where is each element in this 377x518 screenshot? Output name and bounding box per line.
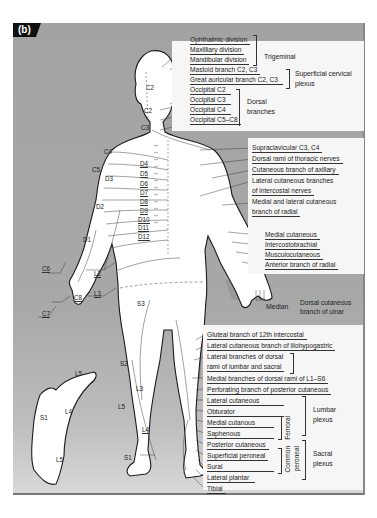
dermatome-d8: D8 bbox=[140, 198, 148, 206]
dermatome-d4: D4 bbox=[140, 160, 148, 168]
dermatome-c8: C8 bbox=[74, 294, 82, 302]
dermatome-l5-foot: L5 bbox=[56, 456, 63, 463]
label-obturator: Obturator bbox=[207, 408, 284, 417]
dermatome-l3-thigh: L3 bbox=[94, 290, 101, 298]
dermatome-d12: D12 bbox=[138, 233, 150, 241]
label-mastoid-branch: Mastoid branch C2, C3 bbox=[190, 66, 260, 75]
label-saphenous: Saphenous bbox=[207, 430, 274, 439]
group-femoral: Femoral bbox=[284, 416, 291, 440]
dermatome-c6: C6 bbox=[42, 265, 50, 273]
dermatome-d1: D1 bbox=[83, 236, 91, 243]
dermatome-l3-leg: L3 bbox=[136, 385, 143, 392]
label-superficial-peroneal: Superficial peroneal bbox=[207, 452, 268, 461]
label-occipital-c3: Occipital C3 bbox=[190, 96, 231, 105]
dermatome-c4: C4 bbox=[104, 148, 112, 155]
label-intercostobrachial: Intercostobrachial bbox=[265, 241, 320, 250]
dermatome-l4-leg: L4 bbox=[142, 426, 149, 434]
label-medial-cutanous: Medial cutanous bbox=[207, 419, 274, 428]
dermatome-s1-foot: S1 bbox=[40, 414, 48, 421]
dermatome-d3: D3 bbox=[105, 175, 113, 182]
label-dorsal-ulnar-1: Dorsal cutaneous bbox=[300, 299, 351, 308]
label-gluteal-12th-intercostal: Gluteal branch of 12th intercostal bbox=[207, 331, 307, 340]
lateral-dorsal-rami-bracket bbox=[290, 353, 294, 374]
dermatome-l2: L2 bbox=[94, 270, 101, 278]
label-occipital-c2: Occipital C2 bbox=[190, 86, 231, 95]
label-medial-lateral-radial-2: branch of radial bbox=[252, 208, 300, 217]
group-superficial-cervical-2: plexus bbox=[295, 80, 315, 89]
label-medial-lateral-radial-1: Medial and lateral cutaneous bbox=[252, 198, 336, 207]
dorsal-branches-bracket bbox=[236, 89, 240, 126]
group-lumbar-plexus-2: plexus bbox=[313, 416, 333, 425]
dermatome-l5-leg: L5 bbox=[118, 403, 125, 410]
label-lateral-dorsal-rami-2: rami of lumbar and sacral bbox=[207, 363, 284, 372]
dermatome-s3: S3 bbox=[137, 300, 145, 307]
label-lateral-cutaneous-1: Lateral cutaneous branches bbox=[252, 177, 333, 186]
label-dorsal-rami-thoracic: Dorsal rami of thoracic nerves bbox=[252, 155, 343, 164]
group-common-peroneal-2: peroneal bbox=[293, 446, 300, 471]
dermatome-c5: C5 bbox=[92, 166, 100, 173]
group-dorsal-2: branches bbox=[247, 108, 275, 117]
label-lateral-cutaneous-2: of intercostal nerves bbox=[252, 187, 314, 196]
label-mandibular-division: Mandibular division bbox=[190, 56, 249, 65]
femoral-bracket bbox=[278, 416, 282, 440]
label-occipital-c4: Occipital C4 bbox=[190, 106, 231, 115]
dermatome-c2-neck: C2 bbox=[144, 107, 152, 114]
label-occipital-c5-c8: Occipital C5–C8 bbox=[190, 116, 241, 125]
dermatome-c7: C7 bbox=[42, 310, 50, 318]
lumbar-plexus-bracket bbox=[302, 396, 306, 436]
dermatome-l4-foot: L4 bbox=[65, 408, 72, 415]
group-sacral-plexus-1: Sacral bbox=[313, 450, 332, 459]
group-dorsal-1: Dorsal bbox=[247, 98, 267, 107]
dermatome-d5: D5 bbox=[140, 170, 148, 178]
label-medial-cutaneous-arm: Medial cutaneous bbox=[265, 231, 320, 240]
label-tibial: Tibial bbox=[207, 485, 226, 494]
group-superficial-cervical-1: Superficial cervical bbox=[295, 70, 352, 79]
label-great-auricular-branch: Great auricular branch C2, C3 bbox=[190, 76, 283, 85]
label-sural: Sural bbox=[207, 463, 274, 472]
dermatome-s1-heel: S1 bbox=[124, 454, 132, 461]
label-lateral-cutaneous-leg: Lateral cutaneous bbox=[207, 397, 284, 406]
label-lateral-iliohypogastric: Lateral cutaneous branch of iliohypogast… bbox=[207, 342, 335, 351]
dermatome-d2: D2 bbox=[96, 203, 104, 210]
group-trigeminal: Trigeminal bbox=[264, 53, 295, 62]
group-lumbar-plexus-1: Lumbar bbox=[313, 406, 336, 415]
dermatome-d10: D10 bbox=[138, 216, 150, 224]
trigeminal-bracket bbox=[253, 35, 257, 66]
dermatome-l5-foot-top: L5 bbox=[75, 370, 82, 377]
group-sacral-plexus-2: plexus bbox=[313, 460, 333, 469]
label-posterior-cutaneous: Posterior cutaneous bbox=[207, 441, 269, 450]
common-peroneal-bracket bbox=[278, 448, 282, 474]
dermatome-d11: D11 bbox=[138, 224, 149, 232]
superficial-cervical-bracket bbox=[286, 69, 290, 89]
label-lateral-plantar: Lateral plantar bbox=[207, 474, 255, 483]
label-ophthalmic-division: Ophthalmic division bbox=[190, 36, 250, 45]
label-anterior-branch-radial: Anterior branch of radial bbox=[265, 261, 338, 270]
label-dorsal-ulnar-2: branch of ulnar bbox=[300, 308, 344, 317]
label-perforating-posterior: Perforating branch of posterior cutaneou… bbox=[207, 386, 331, 395]
label-cutaneous-axillary: Cutaneous branch of axillary bbox=[252, 166, 339, 175]
dermatome-d7: D7 bbox=[140, 189, 148, 197]
label-musculocutaneous: Musculocutaneous bbox=[265, 251, 323, 260]
label-maxilliary-division: Maxilliary division bbox=[190, 46, 244, 55]
dermatome-d9: D9 bbox=[140, 207, 148, 215]
sacral-plexus-bracket bbox=[302, 440, 306, 480]
label-lateral-dorsal-rami-1: Lateral branches of dorsal bbox=[207, 353, 283, 362]
dermatome-c3: C3 bbox=[141, 124, 149, 131]
group-common-peroneal-1: Common bbox=[284, 446, 291, 472]
dermatome-c2-head: C2 bbox=[146, 84, 154, 91]
dermatome-s2: S2 bbox=[120, 360, 128, 367]
label-medial-dorsal-rami: Medial branches of dorsal rami of L1–S6 bbox=[207, 375, 328, 384]
label-median: Median bbox=[266, 303, 288, 312]
label-supraclavicular: Supraclavicular C3, C4 bbox=[252, 144, 322, 153]
dermatome-d6: D6 bbox=[140, 180, 148, 188]
